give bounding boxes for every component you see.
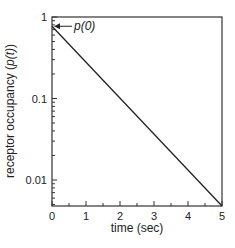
y-tick-label: 0.01: [26, 174, 47, 186]
plot-frame: [52, 17, 222, 206]
x-axis-ticks: 012345: [49, 201, 225, 222]
y-tick-label: 1: [41, 11, 47, 23]
plot-border: [52, 17, 222, 206]
x-tick-label: 5: [219, 210, 225, 222]
y-tick-label: 0.1: [32, 93, 47, 105]
chart: 012345 0.010.11 p(0) time (sec) receptor…: [0, 0, 235, 248]
x-tick-label: 0: [49, 210, 55, 222]
data-series: [52, 26, 222, 206]
x-axis-label: time (sec): [111, 221, 164, 235]
series-line: [52, 26, 222, 206]
arrowhead-icon: [54, 23, 60, 29]
y-axis-label: receptor occupancy (p(t)): [3, 44, 17, 178]
annotation-p0: p(0): [54, 19, 95, 33]
annotation-label: p(0): [73, 19, 95, 33]
x-tick-label: 4: [185, 210, 191, 222]
x-tick-label: 1: [83, 210, 89, 222]
